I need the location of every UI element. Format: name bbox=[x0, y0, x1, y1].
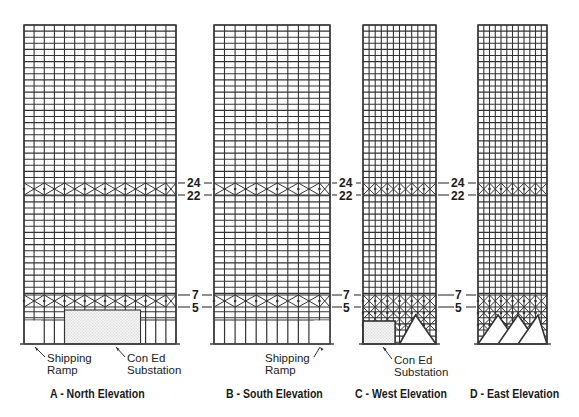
floor-label-5-ab: 5 bbox=[192, 302, 199, 314]
floor-label-5-bc: 5 bbox=[343, 302, 350, 314]
floor-label-22-bc: 22 bbox=[339, 190, 352, 202]
note-con-ed-substation-north: Con Ed Substation bbox=[127, 352, 181, 376]
floor-label-24-cd: 24 bbox=[451, 177, 464, 189]
note-shipping-ramp-south: Shipping Ramp bbox=[265, 352, 310, 376]
note-line: Con Ed bbox=[394, 354, 448, 366]
elevation-B bbox=[210, 25, 334, 344]
elevation-A bbox=[20, 25, 180, 344]
note-line: Ramp bbox=[265, 364, 310, 376]
caption-east-elevation: D - East Elevation bbox=[470, 387, 559, 401]
floor-label-7-cd: 7 bbox=[455, 289, 462, 301]
note-shipping-ramp-north: Shipping Ramp bbox=[47, 352, 92, 376]
note-line: Shipping bbox=[265, 352, 310, 364]
note-line: Ramp bbox=[47, 364, 92, 376]
floor-label-7-bc: 7 bbox=[343, 289, 350, 301]
note-con-ed-substation-west: Con Ed Substation bbox=[394, 354, 448, 378]
floor-label-5-cd: 5 bbox=[455, 302, 462, 314]
floor-label-22-cd: 22 bbox=[451, 190, 464, 202]
elevation-C bbox=[359, 25, 440, 344]
note-line: Substation bbox=[394, 366, 448, 378]
note-line: Con Ed bbox=[127, 352, 181, 364]
floor-label-24-bc: 24 bbox=[339, 177, 352, 189]
floor-label-24-ab: 24 bbox=[187, 177, 200, 189]
caption-south-elevation: B - South Elevation bbox=[226, 387, 323, 401]
note-line: Substation bbox=[127, 364, 181, 376]
floor-label-22-ab: 22 bbox=[187, 190, 200, 202]
elevation-D bbox=[474, 25, 551, 344]
floor-label-7-ab: 7 bbox=[192, 289, 199, 301]
caption-north-elevation: A - North Elevation bbox=[50, 387, 145, 401]
note-line: Shipping bbox=[47, 352, 92, 364]
caption-west-elevation: C - West Elevation bbox=[355, 387, 447, 401]
